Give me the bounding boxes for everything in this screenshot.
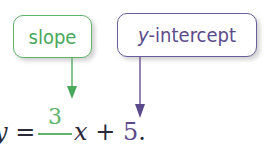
slope-numerator: 3 (38, 104, 72, 129)
equals-sign: = (8, 118, 36, 144)
slope-arrow-icon (67, 58, 77, 99)
equation-rhs: x + 5. (74, 118, 146, 144)
y-variable: y (0, 118, 8, 144)
x-variable: x (74, 118, 88, 144)
equation-lhs: y = (0, 118, 35, 144)
plus-sign: + (88, 118, 123, 144)
y-intercept-arrow-icon (135, 57, 145, 118)
y-intercept-value: 5 (123, 118, 138, 144)
period: . (138, 118, 146, 144)
fraction-bar (38, 133, 72, 135)
